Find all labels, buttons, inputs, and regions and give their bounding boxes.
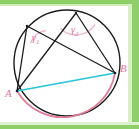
- point-label-A: A: [4, 87, 12, 99]
- frame-top-bar: [0, 0, 139, 4]
- frame-top-highlight: [0, 4, 139, 6]
- frame-bottom-bar: [0, 125, 139, 129]
- vertex-point-A: [16, 90, 19, 93]
- vertex-point-C1: [26, 25, 28, 27]
- frame-bottom-highlight: [0, 122, 139, 125]
- vertex-point-C2: [75, 12, 77, 14]
- angle-label-gamma-1-subscript: 1: [36, 38, 40, 46]
- angle-label-gamma-2-subscript: 2: [75, 30, 79, 38]
- frame-right-bar: [132, 0, 139, 129]
- frame-right-highlight: [128, 4, 132, 125]
- point-label-B: B: [120, 62, 127, 74]
- geometry-figure-container: A B γ1 γ2: [0, 0, 139, 129]
- geometry-figure-svg: A B γ1 γ2: [0, 0, 139, 129]
- vertex-point-B: [114, 72, 117, 75]
